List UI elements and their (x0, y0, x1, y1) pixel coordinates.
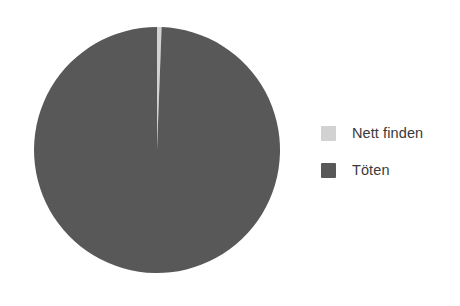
pie-slice-group (34, 27, 280, 273)
legend-item-toeten[interactable]: Töten (321, 159, 456, 181)
legend-swatch-nett-finden (321, 126, 336, 141)
legend-item-nett-finden[interactable]: Nett finden (321, 122, 456, 144)
legend-label-nett-finden: Nett finden (352, 126, 423, 141)
legend-label-toeten: Töten (352, 163, 390, 178)
pie-svg (0, 0, 306, 306)
pie-chart-figure: Nett finden Töten (0, 0, 460, 306)
legend-swatch-toeten (321, 163, 336, 178)
chart-legend: Nett finden Töten (321, 122, 456, 196)
pie-plot-area (0, 0, 306, 306)
